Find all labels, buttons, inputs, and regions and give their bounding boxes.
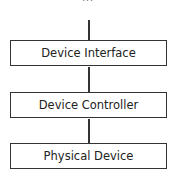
box-physical-device: Physical Device <box>10 143 167 169</box>
box-label: Device Controller <box>39 98 139 112</box>
connector-line-top <box>88 20 90 41</box>
connector-line-2 <box>88 119 90 144</box>
box-label: Device Interface <box>41 46 135 60</box>
truncated-top-text: ... <box>74 0 102 3</box>
connector-line-1 <box>88 67 90 93</box>
box-device-interface: Device Interface <box>10 40 167 66</box>
box-device-controller: Device Controller <box>10 92 167 118</box>
box-label: Physical Device <box>44 149 134 163</box>
